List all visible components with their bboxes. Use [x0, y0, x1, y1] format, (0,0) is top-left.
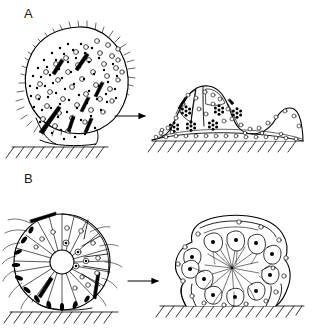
organism-a-left	[16, 21, 135, 146]
substrate-b-left	[4, 312, 118, 323]
figure-artwork	[0, 0, 314, 330]
substrate-b-right	[156, 306, 304, 317]
organism-a-right	[152, 86, 303, 141]
panel-label-b: B	[24, 171, 33, 186]
organism-b-left	[2, 212, 122, 311]
organism-b-right	[175, 215, 290, 307]
panel-label-a: A	[24, 6, 33, 21]
substrate-a-left	[6, 147, 108, 158]
substrate-a-right	[148, 141, 302, 152]
figure-canvas: A B	[0, 0, 314, 330]
